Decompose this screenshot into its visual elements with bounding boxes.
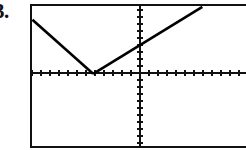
graphing-calculator-screen xyxy=(30,4,246,148)
graph-canvas xyxy=(30,4,246,148)
y-axis xyxy=(137,6,143,147)
screen-frame xyxy=(30,4,246,148)
curve-left-branch xyxy=(32,20,93,74)
item-number-label: 3. xyxy=(0,0,20,24)
curve-right-branch xyxy=(93,7,202,74)
plotted-curve xyxy=(32,7,202,74)
